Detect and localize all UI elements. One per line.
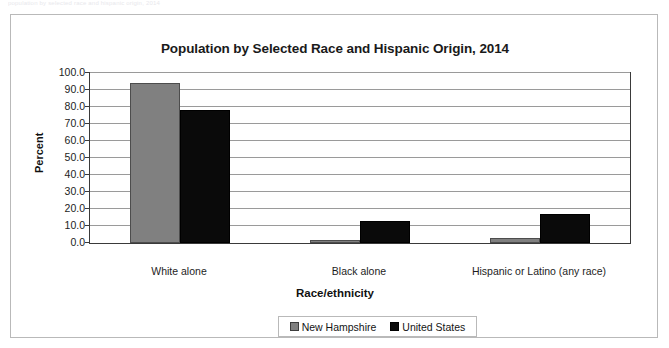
y-axis-tick-label: 30.0 <box>39 185 85 197</box>
bar-united-states <box>360 221 410 243</box>
chart-title: Population by Selected Race and Hispanic… <box>11 41 659 56</box>
legend-item-united-states: United States <box>390 321 465 333</box>
y-axis-tick-label: 90.0 <box>39 83 85 95</box>
y-axis-tick-label: 50.0 <box>39 151 85 163</box>
legend-label-new-hampshire: New Hampshire <box>302 321 377 333</box>
y-axis-tick-label: 40.0 <box>39 168 85 180</box>
bar-united-states <box>540 214 590 243</box>
plot-area <box>89 72 631 244</box>
x-axis-category-label: Black alone <box>332 265 386 277</box>
y-axis-tick-label: 100.0 <box>39 66 85 78</box>
gridline <box>90 72 630 73</box>
x-axis-category-label: Hispanic or Latino (any race) <box>472 265 606 277</box>
y-axis-tick-label: 70.0 <box>39 117 85 129</box>
screenshot-root: population by selected race and hispanic… <box>0 0 669 348</box>
y-axis-tick-label: 10.0 <box>39 219 85 231</box>
chart-legend: New Hampshire United States <box>278 316 477 337</box>
chart-panel: Population by Selected Race and Hispanic… <box>10 14 658 338</box>
legend-label-united-states: United States <box>402 321 465 333</box>
faint-page-header: population by selected race and hispanic… <box>8 0 408 10</box>
legend-item-new-hampshire: New Hampshire <box>290 321 377 333</box>
y-axis-tick-label: 60.0 <box>39 134 85 146</box>
bar-united-states <box>180 110 230 243</box>
bar-new-hampshire <box>130 83 180 243</box>
y-axis-tick-label: 0.0 <box>39 236 85 248</box>
y-axis-tick-label: 80.0 <box>39 100 85 112</box>
gray-square-icon <box>290 322 299 331</box>
black-square-icon <box>390 322 399 331</box>
bar-new-hampshire <box>310 240 360 243</box>
x-axis-category-label: White alone <box>151 265 206 277</box>
y-axis-tick-label: 20.0 <box>39 202 85 214</box>
bar-new-hampshire <box>490 238 540 243</box>
x-axis-title: Race/ethnicity <box>11 287 659 299</box>
